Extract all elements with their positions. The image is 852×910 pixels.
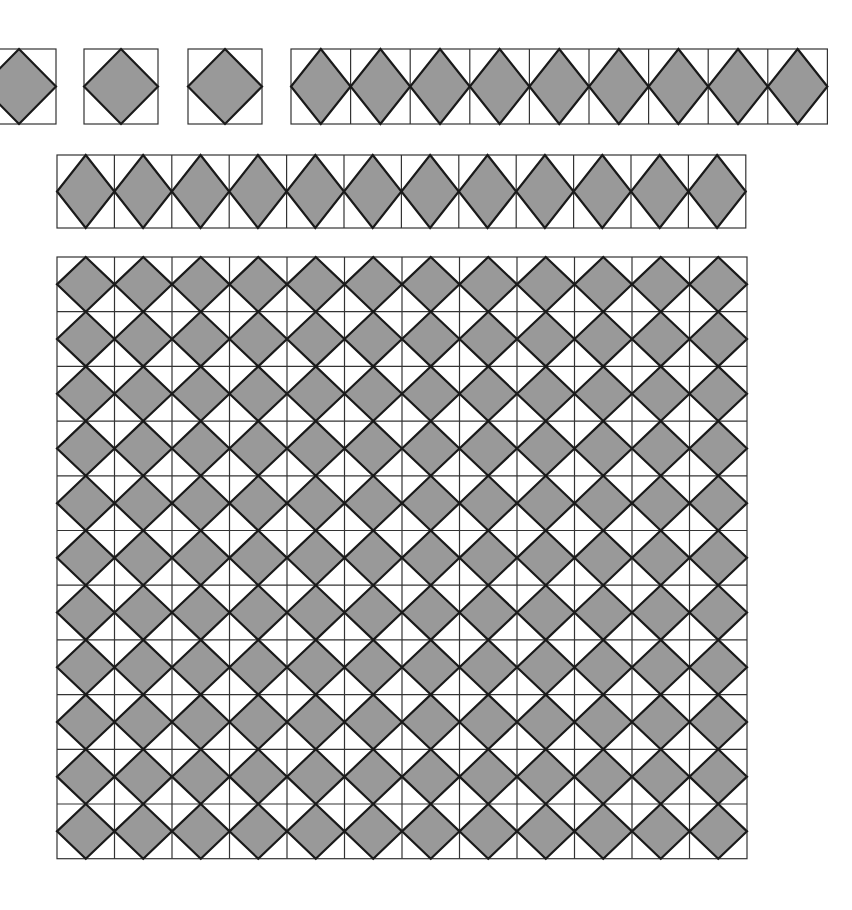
tiling-groups-layer [0, 49, 827, 859]
tiling-diagram-canvas [0, 0, 852, 910]
tiling-group-strip-row-second [57, 155, 746, 228]
geometric-figure [0, 0, 852, 910]
tiling-group-main-grid [57, 257, 747, 859]
tiling-group-isolated-square-3 [188, 49, 262, 124]
tiling-group-strip-row-top [291, 49, 827, 124]
tiling-group-isolated-square-1 [0, 49, 56, 124]
tiling-group-isolated-square-2 [84, 49, 158, 124]
